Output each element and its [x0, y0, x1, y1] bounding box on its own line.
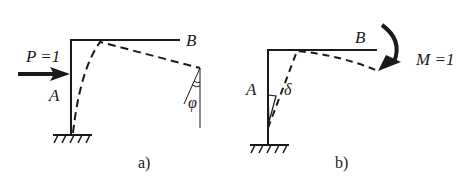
point-label-b: B [186, 31, 197, 50]
frame-a-member [71, 40, 180, 135]
angle-label-phi: φ [188, 94, 197, 112]
support-hatch-b [251, 145, 287, 153]
figure-a: P =1 A B φ a) [18, 31, 200, 172]
point-label-a-b: A [245, 80, 257, 99]
rotation-wedge-delta [268, 95, 276, 122]
moment-arrow-m [378, 25, 401, 71]
figure-b: M =1 A B δ b) [245, 25, 454, 172]
moment-label-m: M =1 [415, 50, 454, 69]
deformed-shape-a [73, 42, 200, 133]
point-label-a: A [48, 86, 60, 105]
point-label-b-b: B [355, 28, 366, 47]
frame-diagram: P =1 A B φ a) M =1 A B δ b) [0, 0, 475, 194]
angle-arc-phi [194, 81, 200, 83]
load-label-p: P =1 [25, 47, 60, 66]
deflection-label-delta: δ [284, 81, 292, 98]
load-arrow-p [18, 67, 70, 81]
support-hatch-a [54, 135, 90, 143]
caption-a: a) [138, 154, 150, 172]
angle-arc-phi-2 [192, 85, 200, 87]
caption-b: b) [335, 154, 348, 172]
